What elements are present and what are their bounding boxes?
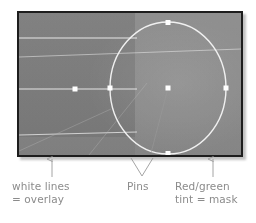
caption-red-green-tint-mask: Red/green tint = mask bbox=[175, 180, 238, 206]
overlay-graphics bbox=[19, 13, 241, 155]
photo-preview-panel[interactable] bbox=[17, 11, 243, 157]
scene-edge-group bbox=[19, 83, 147, 155]
pin-ellipse-bottom bbox=[166, 151, 171, 155]
leader-pins-left bbox=[131, 158, 142, 176]
pin-ellipse-center bbox=[166, 86, 171, 91]
overlay-line-2 bbox=[19, 49, 241, 57]
figure-root: white lines = overlay Pins Red/green tin… bbox=[0, 0, 256, 223]
center-pin-leader bbox=[151, 88, 168, 153]
leader-pins-right bbox=[142, 158, 153, 176]
pin-ellipse-top bbox=[166, 20, 171, 25]
caption-pins: Pins bbox=[127, 180, 149, 193]
overlay-line-4 bbox=[19, 132, 137, 135]
pin-overlay-line bbox=[73, 87, 78, 92]
overlay-line-group bbox=[19, 38, 241, 135]
caption-white-lines-overlay: white lines = overlay bbox=[12, 180, 70, 206]
pin-ellipse-right bbox=[224, 86, 229, 91]
pin-ellipse-left bbox=[108, 86, 113, 91]
pin-group bbox=[73, 20, 229, 155]
